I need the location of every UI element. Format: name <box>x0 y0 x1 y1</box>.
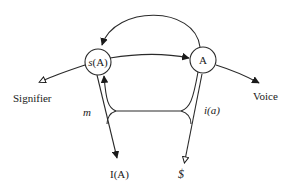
crossbar-right-down-curve <box>181 111 191 124</box>
message-node-suffix: (A) <box>93 56 109 69</box>
voice-label: Voice <box>253 90 278 102</box>
signifier-label: Signifier <box>13 92 52 104</box>
return-arc-edge <box>102 15 200 47</box>
code-node-label: A <box>199 54 207 66</box>
ia-edge-label: i(a) <box>204 104 220 117</box>
message-node: s(A) <box>85 49 111 75</box>
voice-edge <box>216 65 259 83</box>
code-node: A <box>190 47 216 73</box>
signifier-edge <box>42 65 85 81</box>
ideal-edge <box>97 75 117 158</box>
subject-edge <box>185 74 202 160</box>
ideal-label: I(A) <box>110 168 129 181</box>
upward-to-message-edge <box>104 76 116 111</box>
subject-label: $ <box>178 167 184 181</box>
message-to-code-edge <box>110 54 189 58</box>
m-edge-label: m <box>83 106 91 118</box>
graph-of-desire-diagram: s(A) A Signifier Voice I(A) $ m i(a) <box>0 0 293 189</box>
svg-text:s(A): s(A) <box>88 56 108 69</box>
